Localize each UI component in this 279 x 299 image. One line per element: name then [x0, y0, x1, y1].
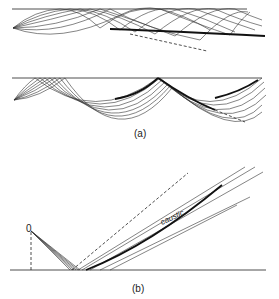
panel-a-bottom-diagram: [12, 78, 266, 122]
panel-b-diagram: 0 caustic: [10, 167, 266, 270]
figure-canvas: (a) 0 caustic (b): [0, 0, 279, 299]
dashed-extension: [130, 34, 207, 51]
panel-a-label: (a): [134, 128, 146, 139]
panel-b-label: (b): [132, 283, 144, 294]
caustic-curve: [110, 29, 265, 36]
caustic-curve-left: [115, 78, 158, 99]
caustic-curve: [86, 185, 222, 270]
panel-a-top-diagram: [12, 8, 265, 51]
source-label: 0: [26, 223, 32, 234]
